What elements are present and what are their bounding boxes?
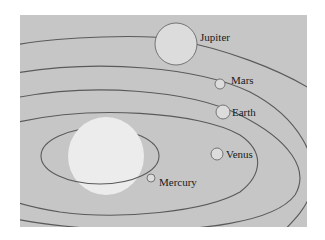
label-jupiter: Jupiter (200, 31, 230, 43)
sun (68, 117, 144, 195)
planet-jupiter (155, 23, 197, 65)
planet-earth (216, 105, 230, 119)
planet-mars (215, 79, 225, 89)
label-venus: Venus (226, 148, 253, 160)
label-mercury: Mercury (159, 176, 197, 188)
solar-system-diagram: Jupiter Mars Earth Venus Mercury (0, 0, 325, 240)
label-earth: Earth (232, 106, 256, 118)
planet-venus (211, 148, 223, 160)
planet-mercury (147, 174, 155, 182)
label-mars: Mars (231, 74, 254, 86)
